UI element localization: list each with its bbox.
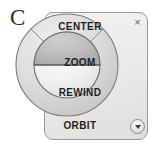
wheel-label-zoom[interactable]: ZOOM <box>47 57 113 68</box>
figure-panel-c: C <box>0 0 159 153</box>
wheel-label-rewind[interactable]: REWIND <box>44 87 116 98</box>
wheel-menu-button[interactable] <box>130 119 145 134</box>
wheel-label-center[interactable]: CENTER <box>44 21 116 32</box>
chevron-down-icon <box>135 125 141 129</box>
close-icon[interactable]: × <box>131 16 144 29</box>
wheel-label-orbit[interactable]: ORBIT <box>47 120 113 131</box>
